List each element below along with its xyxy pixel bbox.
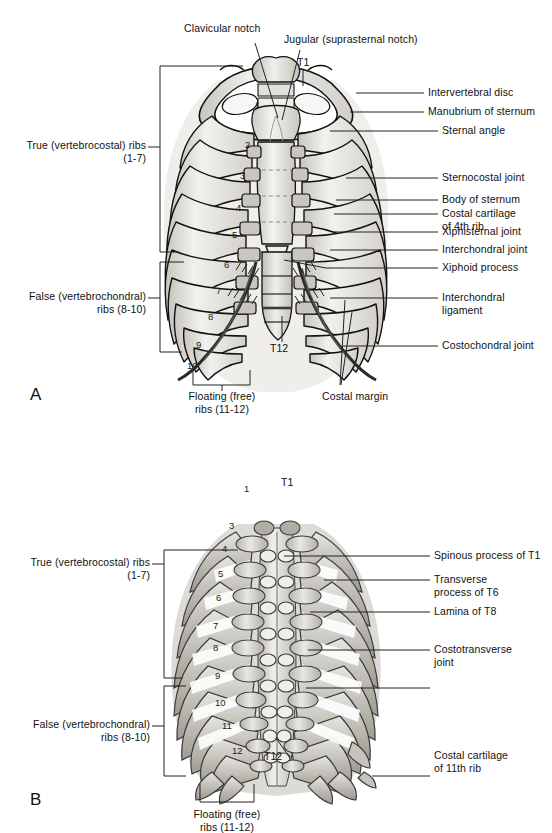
thoracic-cage-anterior bbox=[148, 43, 438, 392]
rib-number-12-b: 12 bbox=[232, 745, 243, 756]
label-transverse-process-t6: Transverse process of T6 bbox=[434, 573, 499, 598]
label-vertebra-t1-b: T1 bbox=[281, 476, 293, 488]
label-costal-cartilage-11th-rib: Costal cartilage of 11th rib bbox=[434, 749, 508, 774]
rib-number-1-b: 1 bbox=[244, 483, 249, 494]
rib-number-10-a: 10 bbox=[187, 360, 198, 371]
label-vertebra-t12-b: T12 bbox=[264, 750, 282, 762]
panel-a-anterior-view: A Clavicular notch Jugular (suprasternal… bbox=[0, 0, 552, 420]
label-vertebra-t12-a: T12 bbox=[270, 342, 288, 354]
rib-number-4-b: 4 bbox=[222, 543, 227, 554]
rib-number-2-a: 2 bbox=[245, 139, 250, 150]
rib-number-3-a: 3 bbox=[240, 170, 245, 181]
rib-number-3-b: 3 bbox=[229, 520, 234, 531]
label-xiphisternal-joint: Xiphisternal joint bbox=[442, 225, 521, 238]
rib-number-11-b: 11 bbox=[222, 720, 232, 731]
label-floating-ribs-a: Floating (free) ribs (11-12) bbox=[172, 390, 272, 415]
label-vertebra-t1-a: T1 bbox=[297, 56, 309, 68]
label-xiphoid-process: Xiphoid process bbox=[442, 261, 518, 274]
label-true-ribs-b: True (vertebrocostal) ribs (1-7) bbox=[14, 556, 150, 581]
label-interchondral-joint: Interchondral joint bbox=[442, 243, 527, 256]
label-manubrium-of-sternum: Manubrium of sternum bbox=[428, 105, 535, 118]
rib-number-10-b: 10 bbox=[215, 697, 226, 708]
label-sternal-angle: Sternal angle bbox=[442, 124, 505, 137]
label-costochondral-joint: Costochondral joint bbox=[442, 339, 534, 352]
label-costal-margin: Costal margin bbox=[322, 390, 388, 403]
label-costotransverse-joint: Costotransverse joint bbox=[434, 643, 512, 668]
rib-number-9-b: 9 bbox=[215, 670, 220, 681]
rib-number-5-b: 5 bbox=[218, 568, 223, 579]
rib-number-1-a: 1 bbox=[255, 99, 260, 110]
rib-number-6-a: 6 bbox=[224, 259, 229, 270]
rib-number-7-b: 7 bbox=[213, 620, 218, 631]
rib-number-4-a: 4 bbox=[236, 202, 241, 213]
label-jugular-notch: Jugular (suprasternal notch) bbox=[284, 33, 418, 46]
label-false-ribs-a: False (vertebrochondral) ribs (8-10) bbox=[6, 290, 146, 315]
label-floating-ribs-b: Floating (free) ribs (11-12) bbox=[177, 808, 277, 833]
label-lamina-of-t8: Lamina of T8 bbox=[434, 605, 496, 618]
panel-b-posterior-view: B T1 T12 Spinous process of T1 Transvers… bbox=[0, 420, 552, 829]
panel-letter-b: B bbox=[30, 790, 41, 810]
rib-number-5-a: 5 bbox=[232, 229, 237, 240]
rib-number-8-b: 8 bbox=[213, 642, 218, 653]
label-interchondral-ligament: Interchondral ligament bbox=[442, 291, 505, 316]
rib-number-8-a: 8 bbox=[208, 311, 213, 322]
rib-number-9-a: 9 bbox=[196, 339, 201, 350]
rib-number-6-b: 6 bbox=[216, 592, 221, 603]
label-clavicular-notch: Clavicular notch bbox=[184, 22, 260, 35]
rib-number-7-a: 7 bbox=[216, 285, 221, 296]
label-false-ribs-b: False (vertebrochondral) ribs (8-10) bbox=[10, 718, 150, 743]
label-sternocostal-joint: Sternocostal joint bbox=[442, 171, 524, 184]
label-intervertebral-disc: Intervertebral disc bbox=[428, 86, 513, 99]
label-true-ribs-a: True (vertebrocostal) ribs (1-7) bbox=[10, 139, 146, 164]
label-body-of-sternum: Body of sternum bbox=[442, 193, 520, 206]
panel-letter-a: A bbox=[30, 385, 41, 405]
label-spinous-process-t1: Spinous process of T1 bbox=[434, 549, 541, 562]
thoracic-cage-posterior bbox=[152, 521, 430, 804]
